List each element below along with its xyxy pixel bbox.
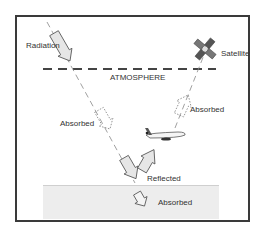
absorbed-ground-arrow-icon	[131, 190, 151, 210]
reflected-path-line	[175, 55, 204, 128]
absorbed-atmosphere-arrow-icon	[92, 106, 117, 133]
absorbed-atmosphere-right-label: Absorbed	[190, 106, 224, 114]
reflected-label: Reflected	[147, 175, 181, 183]
satellite-icon	[188, 32, 222, 66]
atmosphere-label: ATMOSPHERE	[110, 74, 165, 82]
reflected-arrow-icon	[135, 146, 161, 175]
satellite-label: Satellite	[221, 50, 249, 58]
radiation-label: Radiation	[26, 42, 60, 50]
diagram-art	[0, 0, 265, 235]
absorbed-atmosphere-left-label: Absorbed	[60, 120, 94, 128]
airplane-icon	[145, 128, 185, 141]
absorbed-ground-label: Absorbed	[158, 199, 192, 207]
